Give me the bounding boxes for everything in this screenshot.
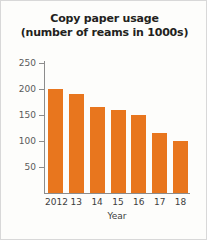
y-axis-tick-mark <box>39 63 44 64</box>
x-axis-tick-label: 13 <box>66 197 87 207</box>
x-axis-tick-label: 15 <box>108 197 129 207</box>
bar <box>111 110 126 193</box>
bar <box>69 94 84 193</box>
plot-area: 50100150200250 2012131415161718 Year <box>1 1 207 240</box>
x-axis-tick-label: 18 <box>170 197 191 207</box>
bar <box>173 141 188 193</box>
y-axis-tick-mark <box>39 141 44 142</box>
y-axis-tick-label: 100 <box>6 137 36 146</box>
bar <box>131 115 146 193</box>
bar <box>90 107 105 193</box>
y-axis-tick-mark <box>39 89 44 90</box>
y-axis-tick-label: 200 <box>6 85 36 94</box>
y-axis-tick-mark <box>39 167 44 168</box>
y-axis-tick-label: 150 <box>6 111 36 120</box>
x-axis-label: Year <box>44 211 190 221</box>
x-axis-tick-label: 14 <box>87 197 108 207</box>
x-axis-tick-label: 2012 <box>45 197 66 207</box>
x-axis-tick-label: 16 <box>128 197 149 207</box>
bar <box>152 133 167 193</box>
bar <box>48 89 63 193</box>
x-axis-tick-label: 17 <box>149 197 170 207</box>
y-axis-tick-mark <box>39 115 44 116</box>
y-axis-tick-label: 50 <box>6 163 36 172</box>
y-axis-tick-label: 250 <box>6 59 36 68</box>
chart-figure: Copy paper usage (number of reams in 100… <box>0 0 207 240</box>
